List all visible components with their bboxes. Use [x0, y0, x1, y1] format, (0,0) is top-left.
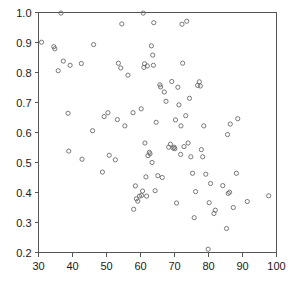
- scatter-point: [120, 22, 124, 26]
- scatter-point: [143, 141, 147, 145]
- scatter-point: [126, 73, 130, 77]
- scatter-point: [119, 66, 123, 70]
- x-axis-ticks: 30405060708090100: [32, 253, 285, 272]
- scatter-point: [197, 80, 201, 84]
- y-axis-tick-label: 0.4: [16, 187, 31, 199]
- scatter-point: [225, 133, 229, 137]
- y-axis-tick-label: 0.9: [16, 37, 31, 49]
- scatter-point: [145, 194, 149, 198]
- scatter-point: [100, 170, 104, 174]
- plot-frame: [39, 13, 277, 253]
- scatter-point: [91, 43, 95, 47]
- scatter-point: [107, 153, 111, 157]
- scatter-point: [149, 44, 153, 48]
- scatter-point: [206, 247, 210, 251]
- scatter-point: [176, 85, 180, 89]
- scatter-point: [151, 63, 155, 67]
- scatter-point: [132, 207, 136, 211]
- scatter-point: [173, 118, 177, 122]
- scatter-point: [170, 79, 174, 83]
- scatter-point: [189, 155, 193, 159]
- scatter-point: [245, 199, 249, 203]
- scatter-point: [160, 175, 164, 179]
- scatter-point: [106, 111, 110, 115]
- scatter-point: [186, 141, 190, 145]
- scatter-point: [66, 111, 70, 115]
- scatter-point: [199, 148, 203, 152]
- scatter-point: [193, 190, 197, 194]
- scatter-point: [144, 175, 148, 179]
- scatter-point: [61, 59, 65, 63]
- scatter-point: [102, 115, 106, 119]
- scatter-point: [156, 174, 160, 178]
- scatter-point: [140, 189, 144, 193]
- scatter-point: [154, 120, 158, 124]
- scatter-point: [182, 145, 186, 149]
- y-axis-tick-label: 0.6: [16, 127, 31, 139]
- scatter-point: [116, 61, 120, 65]
- scatter-point: [174, 201, 178, 205]
- x-axis-tick-label: 90: [236, 260, 248, 272]
- scatter-point: [113, 158, 117, 162]
- scatter-point: [179, 152, 183, 156]
- scatter-point: [236, 117, 240, 121]
- scatter-point: [204, 172, 208, 176]
- scatter-point: [56, 69, 60, 73]
- x-axis-tick-label: 50: [100, 260, 112, 272]
- scatter-point: [234, 171, 238, 175]
- scatter-point: [184, 114, 188, 118]
- y-axis-tick-label: 0.8: [16, 67, 31, 79]
- y-axis-tick-label: 0.7: [16, 97, 31, 109]
- y-axis-tick-label: 0.5: [16, 157, 31, 169]
- scatter-plot-canvas: 30405060708090100 0.20.30.40.50.60.70.80…: [0, 0, 295, 290]
- x-axis-tick-label: 40: [66, 260, 78, 272]
- scatter-point: [141, 11, 145, 15]
- scatter-point: [115, 118, 119, 122]
- scatter-point: [150, 160, 154, 164]
- scatter-point: [190, 171, 194, 175]
- scatter-point: [59, 11, 63, 15]
- scatter-point: [228, 122, 232, 126]
- scatter-point: [177, 103, 181, 107]
- scatter-point: [151, 53, 155, 57]
- scatter-point: [202, 124, 206, 128]
- x-axis-tick-label: 80: [202, 260, 214, 272]
- y-axis-tick-label: 0.2: [16, 247, 31, 259]
- x-axis-tick-label: 100: [267, 260, 285, 272]
- scatter-point: [131, 111, 135, 115]
- scatter-point: [180, 22, 184, 26]
- scatter-point: [208, 181, 212, 185]
- scatter-point: [68, 63, 72, 67]
- scatter-point: [267, 194, 271, 198]
- scatter-point: [164, 99, 168, 103]
- y-axis-tick-label: 1.0: [16, 7, 31, 19]
- scatter-point: [185, 19, 189, 23]
- scatter-point: [133, 184, 137, 188]
- scatter-point: [67, 149, 71, 153]
- x-axis-tick-label: 60: [134, 260, 146, 272]
- scatter-point: [123, 124, 127, 128]
- scatter-point: [224, 226, 228, 230]
- scatter-point: [198, 84, 202, 88]
- scatter-point: [187, 96, 191, 100]
- x-axis-tick-label: 70: [168, 260, 180, 272]
- scatter-point: [181, 61, 185, 65]
- x-axis-tick-label: 30: [32, 260, 44, 272]
- scatter-point: [162, 90, 166, 94]
- scatter-point: [152, 21, 156, 25]
- scatter-point: [90, 129, 94, 133]
- scatter-point: [39, 40, 43, 44]
- scatter-point: [79, 61, 83, 65]
- scatter-point: [207, 201, 211, 205]
- scatter-point: [221, 184, 225, 188]
- scatter-point: [192, 216, 196, 220]
- y-axis-ticks: 0.20.30.40.50.60.70.80.91.0: [16, 7, 38, 259]
- scatter-point: [179, 124, 183, 128]
- scatter-point: [153, 189, 157, 193]
- scatter-plot-figure: 30405060708090100 0.20.30.40.50.60.70.80…: [0, 0, 295, 290]
- scatter-point: [231, 205, 235, 209]
- y-axis-tick-label: 0.3: [16, 217, 31, 229]
- scatter-point: [80, 157, 84, 161]
- scatter-point: [139, 107, 143, 111]
- scatter-point: [201, 155, 205, 159]
